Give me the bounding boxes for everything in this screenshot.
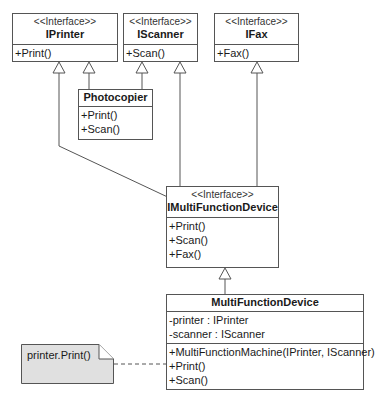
operations-section: +MultiFunctionMachine(IPrinter, IScanner… [167, 343, 363, 389]
class-name: IPrinter [13, 28, 117, 41]
arrowhead-ifax [251, 62, 263, 73]
class-name: IScanner [124, 28, 197, 41]
stereotype-label: <<Interface>> [167, 189, 278, 201]
class-header: <<Interface>> IScanner [124, 14, 197, 45]
arrowhead-iprinter-right [83, 62, 95, 73]
operation: +Scan() [169, 373, 361, 387]
class-header: <<Interface>> IPrinter [13, 14, 117, 45]
attribute: -printer : IPrinter [169, 313, 361, 327]
arrowhead-iscanner-right [174, 62, 186, 73]
operation: +Print() [15, 46, 115, 60]
note-text: printer.Print() [27, 349, 91, 361]
stereotype-label: <<Interface>> [124, 16, 197, 28]
class-ifax[interactable]: <<Interface>> IFax +Fax() [214, 13, 299, 62]
note[interactable]: printer.Print() [21, 344, 114, 384]
class-name: IMultiFunctionDevice [167, 201, 278, 214]
operations-section: +Print() [13, 45, 117, 62]
class-name: Photocopier [79, 91, 152, 104]
arrowhead-imfd [219, 268, 231, 279]
operation: +Fax() [217, 46, 296, 60]
operation: +MultiFunctionMachine(IPrinter, IScanner… [169, 345, 361, 359]
operation: +Fax() [169, 247, 276, 261]
arrowhead-iscanner-left [136, 62, 148, 73]
stereotype-label: <<Interface>> [13, 16, 117, 28]
operation: +Print() [169, 219, 276, 233]
class-header: <<Interface>> IFax [215, 14, 298, 45]
class-header: Photocopier [79, 90, 152, 107]
operations-section: +Scan() [124, 45, 197, 62]
class-name: MultiFunctionDevice [167, 296, 363, 309]
attributes-section: -printer : IPrinter -scanner : IScanner [167, 312, 363, 343]
class-header: <<Interface>> IMultiFunctionDevice [167, 187, 278, 218]
operation: +Print() [169, 359, 361, 373]
arrowhead-iprinter-left [53, 62, 65, 73]
operation: +Print() [81, 108, 150, 122]
class-header: MultiFunctionDevice [167, 295, 363, 312]
class-iprinter[interactable]: <<Interface>> IPrinter +Print() [12, 13, 118, 62]
operation: +Scan() [126, 46, 195, 60]
class-photocopier[interactable]: Photocopier +Print() +Scan() [78, 89, 153, 140]
class-iscanner[interactable]: <<Interface>> IScanner +Scan() [123, 13, 198, 62]
operations-section: +Print() +Scan() [79, 107, 152, 138]
operations-section: +Fax() [215, 45, 298, 62]
class-multifunctiondevice[interactable]: MultiFunctionDevice -printer : IPrinter … [166, 294, 364, 390]
attribute: -scanner : IScanner [169, 327, 361, 341]
operation: +Scan() [81, 122, 150, 136]
operations-section: +Print() +Scan() +Fax() [167, 218, 278, 263]
class-imultifunctiondevice[interactable]: <<Interface>> IMultiFunctionDevice +Prin… [166, 186, 279, 268]
stereotype-label: <<Interface>> [215, 16, 298, 28]
class-name: IFax [215, 28, 298, 41]
operation: +Scan() [169, 233, 276, 247]
